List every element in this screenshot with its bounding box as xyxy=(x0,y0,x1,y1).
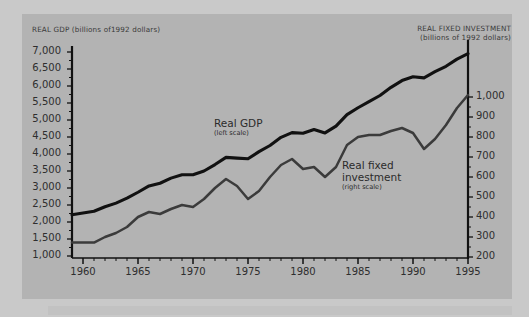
y-tick-label-right: 500 xyxy=(476,190,516,201)
y-tick-label-left: 4,500 xyxy=(15,130,61,141)
y-tick-label-left: 7,000 xyxy=(15,45,61,56)
y-tick-label-left: 1,000 xyxy=(15,249,61,260)
y-tick-label-right: 600 xyxy=(476,170,516,181)
chart-figure: REAL GDP (billions of1992 dollars) REAL … xyxy=(0,0,529,317)
series-line-real-gdp xyxy=(72,54,468,215)
y-tick-label-left: 2,500 xyxy=(15,198,61,209)
x-tick-label: 1995 xyxy=(448,266,488,277)
x-tick-label: 1990 xyxy=(393,266,433,277)
series-line-real-fixed-investment xyxy=(72,95,468,243)
y-tick-label-right: 700 xyxy=(476,150,516,161)
y-tick-label-right: 900 xyxy=(476,110,516,121)
x-tick-label: 1965 xyxy=(118,266,158,277)
y-tick-label-left: 6,500 xyxy=(15,62,61,73)
x-tick-label: 1975 xyxy=(228,266,268,277)
y-tick-label-left: 2,000 xyxy=(15,215,61,226)
x-tick-label: 1985 xyxy=(338,266,378,277)
y-tick-label-right: 800 xyxy=(476,130,516,141)
y-tick-label-left: 3,500 xyxy=(15,164,61,175)
y-tick-label-right: 200 xyxy=(476,250,516,261)
footer-bar xyxy=(48,306,512,315)
x-tick-label: 1960 xyxy=(63,266,103,277)
x-tick-label: 1980 xyxy=(283,266,323,277)
y-tick-label-right: 1,000 xyxy=(476,90,516,101)
y-tick-label-left: 5,500 xyxy=(15,96,61,107)
y-tick-label-left: 3,000 xyxy=(15,181,61,192)
x-tick-label: 1970 xyxy=(173,266,213,277)
y-tick-label-left: 1,500 xyxy=(15,232,61,243)
y-tick-label-left: 6,000 xyxy=(15,79,61,90)
y-tick-label-left: 5,000 xyxy=(15,113,61,124)
y-tick-label-right: 300 xyxy=(476,230,516,241)
y-tick-label-left: 4,000 xyxy=(15,147,61,158)
y-tick-label-right: 400 xyxy=(476,210,516,221)
